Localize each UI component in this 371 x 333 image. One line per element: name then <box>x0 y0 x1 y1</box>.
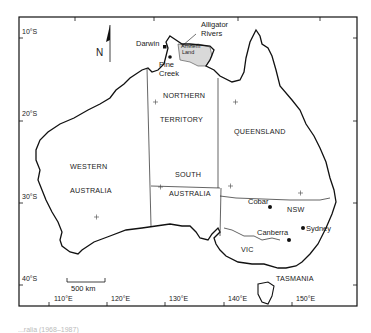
state-label-qld: QUEENSLAND <box>234 127 286 136</box>
scale-bar <box>67 278 105 282</box>
lat-label-40s: 40°S <box>22 274 37 283</box>
state-label-wa-2: AUSTRALIA <box>70 186 112 195</box>
lat-label-20s: 20°S <box>22 109 37 118</box>
state-label-nsw: NSW <box>287 205 304 214</box>
place-label-alligator-2: Rivers <box>201 29 222 38</box>
figure-caption: ...ralia (1968–1987) <box>18 326 79 333</box>
state-label-tas: TASMANIA <box>276 274 314 283</box>
lon-label-140e: 140°E <box>228 294 247 303</box>
scale-bar-label: 500 km <box>71 284 96 293</box>
state-label-nt-1: NORTHERN <box>163 91 205 100</box>
state-label-sa-1: SOUTH <box>175 170 201 179</box>
north-arrow-icon <box>106 25 110 62</box>
lon-label-130e: 130°E <box>169 294 188 303</box>
place-label-cobar: Cobar <box>248 197 268 206</box>
state-label-wa-1: WESTERN <box>70 162 107 171</box>
pine-creek-marker <box>168 55 172 59</box>
sydney-marker <box>301 226 305 230</box>
lon-label-150e: 150°E <box>296 294 315 303</box>
place-label-arnhem-2: Land <box>182 49 194 55</box>
state-label-nt-2: TERRITORY <box>160 115 203 124</box>
place-label-alligator-1: Alligator <box>201 20 228 29</box>
sa-east-border <box>220 188 221 236</box>
lat-label-10s: 10°S <box>22 27 37 36</box>
place-label-sydney: Sydney <box>306 224 331 233</box>
cobar-marker <box>268 205 272 209</box>
lon-label-120e: 120°E <box>111 294 130 303</box>
wa-border <box>147 68 151 226</box>
place-label-pine-creek-2: Creek <box>159 69 179 78</box>
state-label-sa-2: AUSTRALIA <box>169 189 211 198</box>
tasmania-outline <box>258 282 274 304</box>
place-label-darwin: Darwin <box>136 39 159 48</box>
state-label-vic: VIC <box>241 245 254 254</box>
place-label-pine-creek-1: Pine <box>159 60 174 69</box>
darwin-marker <box>163 45 167 49</box>
place-markers <box>163 45 305 242</box>
sa-nsw-qld-border <box>220 196 330 200</box>
north-arrow-label: N <box>96 48 103 57</box>
canberra-marker <box>287 238 291 242</box>
lon-label-110e: 110°E <box>54 294 73 303</box>
lat-label-30s: 30°S <box>22 192 37 201</box>
place-label-canberra: Canberra <box>257 228 288 237</box>
australia-coastline <box>36 30 336 268</box>
